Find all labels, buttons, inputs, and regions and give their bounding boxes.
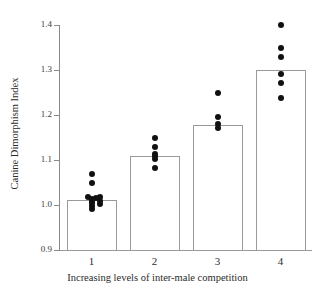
canine-dimorphism-bar-chart: Canine Dimorphism Index 0.91.01.11.21.31… — [0, 0, 315, 290]
data-point — [278, 71, 284, 77]
plot-area — [60, 25, 312, 250]
x-axis-title: Increasing levels of inter-male competit… — [0, 272, 315, 283]
y-tick-mark — [54, 250, 60, 251]
y-tick-label: 1.4 — [22, 20, 52, 29]
x-tick-label-3: 3 — [198, 256, 238, 267]
data-point — [278, 80, 284, 86]
data-point — [152, 135, 158, 141]
x-tick-label-2: 2 — [135, 256, 175, 267]
data-point — [89, 206, 95, 212]
data-point — [97, 201, 103, 207]
data-point — [89, 171, 95, 177]
data-point — [278, 54, 284, 60]
data-point — [278, 45, 284, 51]
y-tick-label: 1.2 — [22, 110, 52, 119]
y-tick-label: 1.0 — [22, 200, 52, 209]
data-point — [152, 156, 158, 162]
y-axis-title: Canine Dimorphism Index — [9, 24, 20, 244]
data-point — [215, 125, 221, 131]
data-point — [278, 22, 284, 28]
data-point — [89, 180, 95, 186]
bar-3 — [193, 125, 243, 250]
x-tick-label-1: 1 — [72, 256, 112, 267]
data-point — [215, 90, 221, 96]
data-point — [152, 144, 158, 150]
y-tick-label: 0.9 — [22, 245, 52, 254]
y-tick-label: 1.3 — [22, 65, 52, 74]
x-axis-baseline — [60, 250, 312, 251]
x-tick-label-4: 4 — [261, 256, 301, 267]
y-tick-label: 1.1 — [22, 155, 52, 164]
data-point — [215, 114, 221, 120]
data-point — [152, 165, 158, 171]
data-point — [278, 95, 284, 101]
